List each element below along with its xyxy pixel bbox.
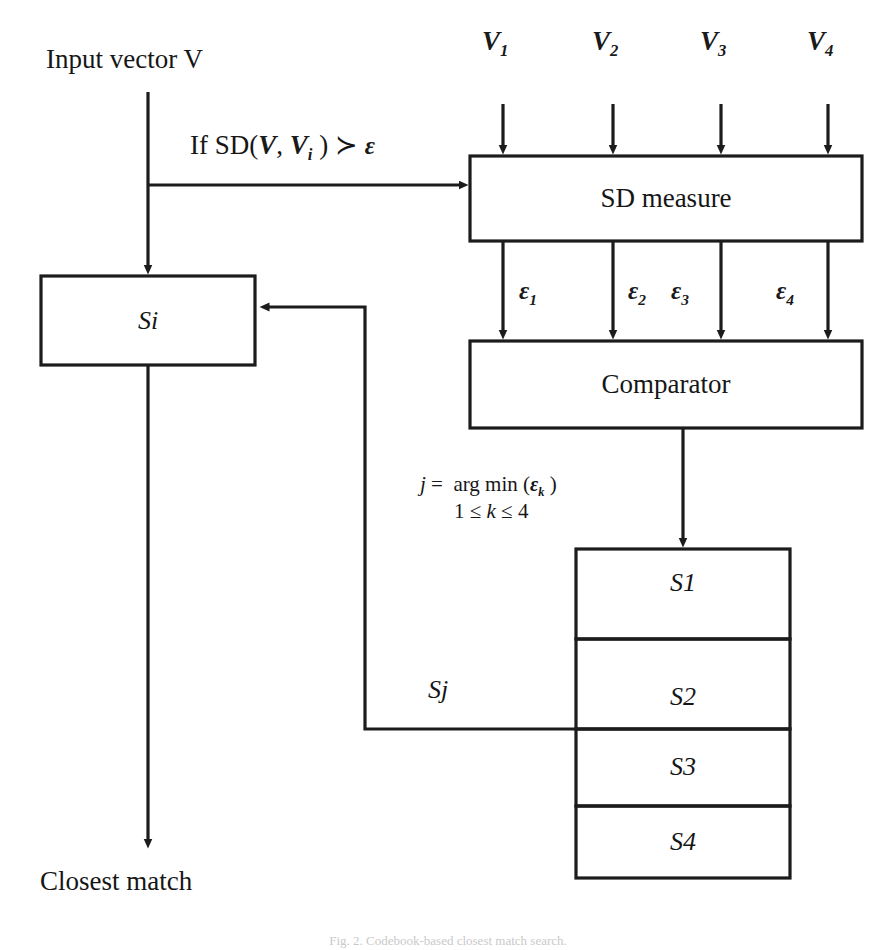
block-label-sd-measure: SD measure bbox=[470, 183, 862, 214]
codebook-entry-label-1: S1 bbox=[576, 568, 790, 598]
output-label: Closest match bbox=[40, 868, 192, 895]
codebook-entry-label-3: S3 bbox=[576, 752, 790, 782]
condition-comma: , bbox=[276, 130, 290, 160]
codeword-label-3: V3 bbox=[700, 28, 726, 60]
condition-vi: Vi bbox=[290, 130, 313, 160]
selection-rule: j = arg min (εk ) 1 ≤ k ≤ 4 bbox=[420, 472, 557, 524]
codeword-label-4: V4 bbox=[807, 28, 833, 60]
condition-epsilon: ε bbox=[365, 132, 375, 159]
condition-succ: ≻ bbox=[328, 130, 365, 160]
epsilon-label-4: ε4 bbox=[776, 277, 794, 309]
condition-v: V bbox=[258, 130, 276, 160]
epsilon-label-1: ε1 bbox=[519, 277, 537, 309]
codebook-entry-label-4: S4 bbox=[576, 827, 790, 857]
condition-paren: ) bbox=[312, 130, 328, 160]
block-label-comparator: Comparator bbox=[470, 369, 862, 400]
selection-rule-line1: j = arg min (εk ) bbox=[420, 472, 557, 499]
selected-codeword-label: Sj bbox=[428, 675, 448, 705]
epsilon-label-2: ε2 bbox=[628, 277, 646, 309]
codeword-label-2: V2 bbox=[592, 28, 618, 60]
figure-canvas: Input vector V If SD(V, Vi ) ≻ ε V1 V2 V… bbox=[0, 0, 896, 950]
block-label-si: Si bbox=[41, 306, 255, 336]
epsilon-label-3: ε3 bbox=[671, 277, 689, 309]
input-vector-label: Input vector V bbox=[46, 46, 203, 73]
codebook-entry-label-2: S2 bbox=[576, 682, 790, 712]
selection-rule-line2: 1 ≤ k ≤ 4 bbox=[420, 499, 557, 524]
codeword-label-1: V1 bbox=[482, 28, 508, 60]
condition-label: If SD(V, Vi ) ≻ ε bbox=[190, 132, 375, 164]
figure-caption: Fig. 2. Codebook-based closest match sea… bbox=[0, 933, 896, 949]
condition-prefix: If SD( bbox=[190, 130, 258, 160]
